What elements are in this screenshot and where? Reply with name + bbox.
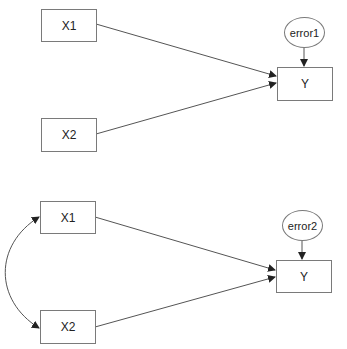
node-label: error2 (288, 220, 317, 232)
path-x1-to-y-1 (96, 24, 276, 76)
node-label: X2 (62, 128, 77, 142)
node-y-2: Y (276, 260, 332, 293)
node-label: Y (300, 270, 308, 284)
node-x2-1: X2 (41, 118, 97, 152)
node-x1-1: X1 (41, 9, 97, 42)
node-label: Y (301, 77, 309, 91)
node-label: X2 (61, 320, 76, 334)
node-x1-2: X1 (40, 201, 96, 234)
path-diagram-edges (0, 0, 347, 349)
node-error1: error1 (284, 17, 325, 48)
covariance-x1-x2 (5, 217, 39, 328)
node-label: X1 (61, 211, 76, 225)
node-x2-2: X2 (40, 310, 96, 344)
node-y-1: Y (277, 67, 333, 101)
node-label: error1 (290, 27, 319, 39)
node-error2: error2 (282, 210, 323, 241)
path-x2-to-y-2 (95, 277, 275, 327)
path-x1-to-y-2 (95, 217, 275, 270)
path-x2-to-y-1 (96, 83, 276, 134)
node-label: X1 (62, 19, 77, 33)
